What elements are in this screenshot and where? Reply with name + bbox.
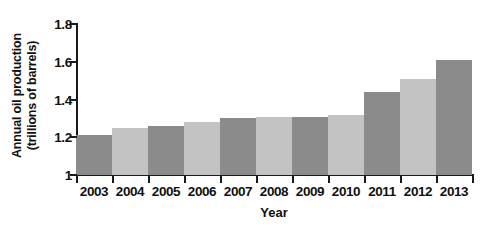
y-axis-tick-mark bbox=[70, 136, 77, 138]
y-axis-tick-label: 1.4 bbox=[46, 92, 72, 107]
x-axis-tick-labels: 2003200420052006200720082009201020112012… bbox=[76, 184, 472, 204]
bar bbox=[148, 126, 184, 175]
plot-area bbox=[76, 24, 472, 175]
x-axis-tick-mark bbox=[76, 176, 78, 183]
y-axis-title: Annual oil production (trillions of barr… bbox=[0, 0, 48, 190]
x-axis-tick-label: 2013 bbox=[440, 184, 468, 199]
y-axis-title-line-2: (trillions of barrels) bbox=[24, 33, 39, 158]
x-axis-tick-mark bbox=[328, 176, 330, 183]
x-axis-tick-mark bbox=[148, 176, 150, 183]
bar bbox=[184, 122, 220, 175]
x-axis-tick-mark bbox=[436, 176, 438, 183]
bar bbox=[292, 117, 328, 176]
y-axis-title-line-1: Annual oil production bbox=[10, 33, 25, 158]
x-axis-tick-label: 2004 bbox=[116, 184, 144, 199]
y-axis-tick-mark bbox=[70, 23, 77, 25]
x-axis-tick-mark bbox=[292, 176, 294, 183]
bar-chart: Annual oil production (trillions of barr… bbox=[0, 0, 501, 234]
y-axis-tick-label: 1.8 bbox=[46, 17, 72, 32]
y-axis-tick-mark bbox=[70, 99, 77, 101]
bar bbox=[256, 117, 292, 176]
bar bbox=[364, 92, 400, 175]
bar-series bbox=[76, 24, 472, 175]
x-axis-tick-mark bbox=[112, 176, 114, 183]
x-axis-tick-mark bbox=[400, 176, 402, 183]
x-axis-tick-label: 2011 bbox=[368, 184, 396, 199]
x-axis-title: Year bbox=[76, 205, 472, 220]
bar bbox=[220, 118, 256, 175]
bar bbox=[328, 115, 364, 175]
x-axis-tick-mark bbox=[220, 176, 222, 183]
x-axis-tick-mark bbox=[184, 176, 186, 183]
x-axis-tick-label: 2012 bbox=[404, 184, 432, 199]
y-axis-tick-label: 1.6 bbox=[46, 54, 72, 69]
x-axis-tick-label: 2010 bbox=[332, 184, 360, 199]
y-axis-tick-label: 1.2 bbox=[46, 130, 72, 145]
x-axis-tick-label: 2008 bbox=[260, 184, 288, 199]
y-axis-tick-label: 1 bbox=[46, 168, 72, 183]
bar bbox=[76, 135, 112, 175]
x-axis-tick-label: 2003 bbox=[80, 184, 108, 199]
x-axis-tick-mark bbox=[364, 176, 366, 183]
bar bbox=[436, 60, 472, 175]
bar bbox=[112, 128, 148, 175]
bar bbox=[400, 79, 436, 175]
x-axis-tick-label: 2007 bbox=[224, 184, 252, 199]
y-axis-tick-labels: 11.21.41.61.8 bbox=[46, 0, 72, 234]
x-axis-tick-label: 2005 bbox=[152, 184, 180, 199]
y-axis-tick-mark bbox=[70, 61, 77, 63]
x-axis-tick-label: 2009 bbox=[296, 184, 324, 199]
x-axis-tick-mark bbox=[472, 176, 474, 183]
x-axis-tick-label: 2006 bbox=[188, 184, 216, 199]
x-axis-tick-mark bbox=[256, 176, 258, 183]
